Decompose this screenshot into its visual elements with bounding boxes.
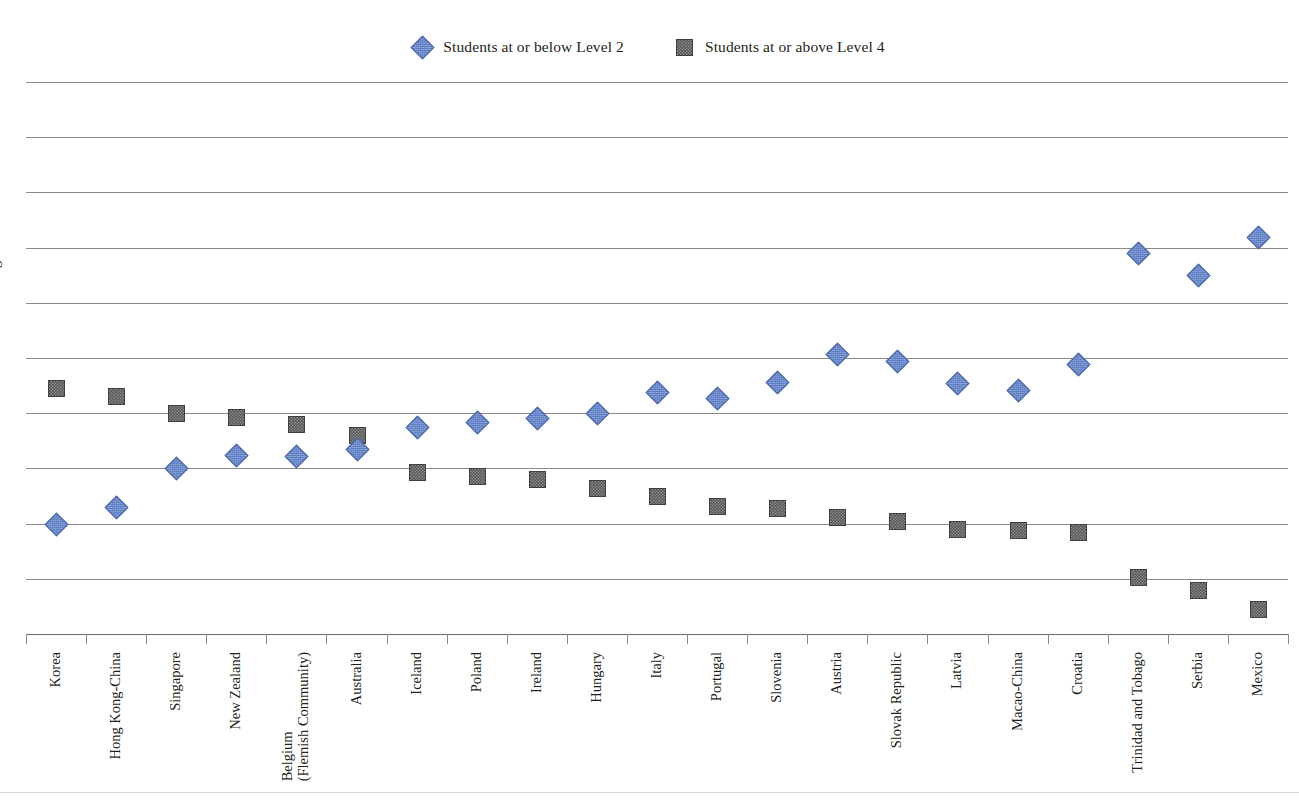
x-tick [1288,634,1289,644]
x-category-label: Belgium(Flemish Community) [280,652,311,781]
x-category-label: Ireland [529,652,545,693]
x-tick [447,634,448,644]
diamond-marker-icon [1066,352,1090,376]
legend-label-above-level-4: Students at or above Level 4 [705,38,885,56]
gridline-20 [26,524,1288,525]
diamond-marker-icon [1246,225,1270,249]
x-tick [507,634,508,644]
diamond-marker-icon [411,35,435,59]
diamond-marker-icon [1126,241,1150,265]
legend-label-below-level-2: Students at or below Level 2 [443,38,624,56]
diamond-marker-icon [1186,264,1210,288]
diamond-marker-icon [766,370,790,394]
x-tick [1048,634,1049,644]
x-tick [206,634,207,644]
x-tick [627,634,628,644]
plot-area [26,82,1288,634]
chart-page: Students at or below Level 2 Students at… [0,0,1299,801]
x-category-label: Austria [829,652,845,695]
gridline-40 [26,413,1288,414]
x-tick [807,634,808,644]
diamond-marker-icon [946,372,970,396]
diamond-marker-icon [165,457,189,481]
x-tick [1228,634,1229,644]
x-tick [1168,634,1169,644]
x-category-label: Portugal [709,652,725,701]
x-category-label: Hungary [589,652,605,703]
x-category-label: Slovak Republic [889,652,905,748]
diamond-marker-icon [826,342,850,366]
square-marker-icon [108,388,125,405]
gridline-80 [26,192,1288,193]
square-marker-icon [589,480,606,497]
square-marker-icon [676,39,693,56]
x-category-label: New Zealand [228,652,244,730]
gridline-100 [26,82,1288,83]
x-tick [867,634,868,644]
diamond-marker-icon [585,402,609,426]
square-marker-icon [1070,524,1087,541]
x-category-label: Trinidad and Tobago [1130,652,1146,773]
square-marker-icon [889,513,906,530]
x-category-label: Mexico [1250,652,1266,696]
legend-item-above-level-4: Students at or above Level 4 [676,38,885,56]
gridline-70 [26,248,1288,249]
square-marker-icon [1190,582,1207,599]
x-category-label: Iceland [409,652,425,695]
x-tick [326,634,327,644]
x-tick [747,634,748,644]
gridline-30 [26,468,1288,469]
square-marker-icon [829,509,846,526]
square-marker-icon [228,409,245,426]
square-marker-icon [469,468,486,485]
square-marker-icon [529,471,546,488]
diamond-marker-icon [886,350,910,374]
square-marker-icon [288,416,305,433]
square-marker-icon [48,380,65,397]
x-tick [567,634,568,644]
diamond-marker-icon [706,387,730,411]
x-tick [266,634,267,644]
x-axis-line [26,634,1288,635]
x-category-label: Macao-China [1010,652,1026,731]
x-tick [1108,634,1109,644]
gridline-60 [26,303,1288,304]
legend-item-below-level-2: Students at or below Level 2 [414,38,624,56]
diamond-marker-icon [525,406,549,430]
square-marker-icon [1010,522,1027,539]
x-tick [86,634,87,644]
gridline-50 [26,358,1288,359]
x-category-label: Latvia [949,652,965,689]
diamond-marker-icon [45,512,69,536]
x-category-label: Singapore [168,652,184,711]
x-category-label: Poland [469,652,485,692]
x-category-label: Slovenia [769,652,785,703]
diamond-marker-icon [1006,378,1030,402]
diamond-marker-icon [285,445,309,469]
square-marker-icon [409,464,426,481]
x-category-label: Australia [349,652,365,705]
gridline-10 [26,579,1288,580]
square-marker-icon [649,488,666,505]
x-tick [26,634,27,644]
x-category-label: Croatia [1070,652,1086,695]
x-tick [146,634,147,644]
x-tick [988,634,989,644]
x-tick [687,634,688,644]
x-category-label: Serbia [1190,652,1206,689]
x-tick [387,634,388,644]
x-category-label: Italy [649,652,665,679]
x-tick [927,634,928,644]
diamond-marker-icon [225,443,249,467]
square-marker-icon [168,405,185,422]
square-marker-icon [709,498,726,515]
square-marker-icon [949,521,966,538]
chart-legend: Students at or below Level 2 Students at… [0,38,1299,56]
x-category-label: Hong Kong-China [108,652,124,760]
x-category-label: Korea [48,652,64,687]
y-axis-title: Percentage of students [0,188,3,318]
square-marker-icon [1130,569,1147,586]
gridline-90 [26,137,1288,138]
footer-divider [0,792,1299,793]
diamond-marker-icon [645,381,669,405]
